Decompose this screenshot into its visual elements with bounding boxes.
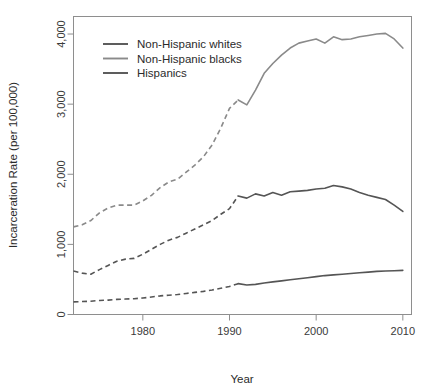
y-tick-label: 2,000 [55,160,67,188]
legend-label-0: Non-Hispanic whites [137,38,242,50]
x-tick-label: 1990 [217,325,241,337]
y-tick-label: 3,000 [55,90,67,118]
y-tick-label: 4,000 [55,20,67,48]
x-axis-title: Year [230,373,253,385]
legend-label-2: Hispanics [137,67,187,79]
y-axis-title: Incarceration Rate (per 100,000) [7,82,19,248]
legend-label-1: Non-Hispanic blacks [137,53,242,65]
y-tick-label: 0 [55,311,67,317]
x-tick-label: 1980 [131,325,155,337]
x-tick-label: 2010 [391,325,415,337]
incarceration-rate-chart: 01,0002,0003,0004,000 1980199020002010 N… [0,0,426,392]
y-tick-label: 1,000 [55,231,67,259]
chart-canvas: 01,0002,0003,0004,000 1980199020002010 N… [0,0,426,392]
x-tick-label: 2000 [304,325,328,337]
